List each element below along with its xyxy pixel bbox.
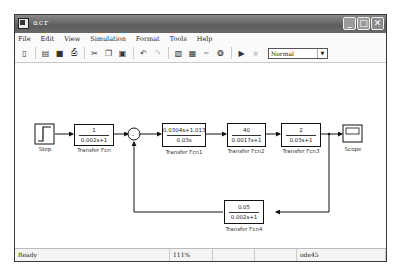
- tf-denominator: 0.002s+1: [75, 137, 113, 143]
- simulink-model-icon: [18, 18, 29, 29]
- model-canvas[interactable]: - Step 1 0.002s+1 Transfer Fcn 0.0304s+1…: [15, 63, 386, 249]
- simulation-mode-value: Normal: [271, 50, 294, 57]
- solver-name: ode45: [297, 249, 386, 261]
- tf3-denominator: 0.03s+1: [282, 137, 320, 143]
- tf-numerator: 1: [75, 127, 113, 133]
- transfer-fcn2-block[interactable]: 40 0.0017s+1: [227, 123, 266, 147]
- tf1-denominator: 0.03s: [163, 137, 205, 143]
- model-window: acr _ □ ✕ File Edit View Simulation Form…: [14, 14, 387, 262]
- start-simulation-icon[interactable]: ▶: [236, 48, 247, 59]
- transfer-fcn3-label: Transfer Fcn3: [282, 148, 319, 154]
- tf3-numerator: 2: [282, 127, 320, 133]
- menu-bar: File Edit View Simulation Format Tools H…: [15, 33, 386, 44]
- menu-simulation[interactable]: Simulation: [90, 35, 126, 43]
- window-title: acr: [33, 18, 49, 27]
- status-text: Ready: [15, 249, 170, 261]
- build-icon[interactable]: ❂: [215, 48, 226, 59]
- status-cell-3: [213, 249, 255, 261]
- copy-icon[interactable]: ❐: [103, 48, 114, 59]
- status-bar: Ready 111% ode45: [15, 248, 386, 261]
- fraction-bar: [286, 135, 316, 136]
- transfer-fcn1-label: Transfer Fcn1: [165, 149, 202, 155]
- title-bar[interactable]: acr _ □ ✕: [15, 15, 386, 33]
- undo-icon[interactable]: ↶: [138, 48, 149, 59]
- menu-help[interactable]: Help: [197, 35, 213, 43]
- fraction-bar: [229, 212, 259, 213]
- scope-block[interactable]: [343, 125, 362, 142]
- menu-edit[interactable]: Edit: [41, 35, 55, 43]
- fraction-bar: [79, 135, 109, 136]
- transfer-fcn4-block[interactable]: 0.05 0.002s+1: [224, 200, 264, 224]
- toolbar-separator: [84, 47, 85, 59]
- save-icon[interactable]: ■: [54, 48, 65, 59]
- maximize-button[interactable]: □: [357, 17, 370, 30]
- library-browser-icon[interactable]: ▧: [173, 48, 184, 59]
- toolbar: ▯ ▤ ■ ⎙ ✂ ❐ ▣ ↶ ↷ ▧ ▦ ✒ ❂ ▶ ■ Normal ▼: [15, 44, 386, 63]
- stop-simulation-icon[interactable]: ■: [250, 48, 261, 59]
- transfer-fcn4-label: Transfer Fcn4: [225, 226, 262, 232]
- chevron-down-icon[interactable]: ▼: [317, 49, 327, 58]
- tf4-denominator: 0.002s+1: [225, 214, 263, 220]
- sum-block[interactable]: [128, 128, 140, 140]
- toolbar-separator: [231, 47, 232, 59]
- transfer-fcn3-block[interactable]: 2 0.03s+1: [281, 123, 321, 147]
- scope-label: Scope: [345, 146, 362, 152]
- debug-icon[interactable]: ✒: [201, 48, 212, 59]
- fraction-bar: [232, 135, 261, 136]
- model-explorer-icon[interactable]: ▦: [187, 48, 198, 59]
- tf1-numerator: 0.0304s+1.013: [163, 127, 205, 133]
- step-label: Step: [39, 146, 52, 152]
- menu-view[interactable]: View: [64, 35, 80, 43]
- paste-icon[interactable]: ▣: [117, 48, 128, 59]
- print-icon[interactable]: ⎙: [68, 48, 79, 59]
- redo-icon[interactable]: ↷: [152, 48, 163, 59]
- cut-icon[interactable]: ✂: [89, 48, 100, 59]
- menu-file[interactable]: File: [18, 35, 31, 43]
- toolbar-separator: [133, 47, 134, 59]
- minimize-button[interactable]: _: [343, 17, 356, 30]
- menu-format[interactable]: Format: [136, 35, 160, 43]
- tf2-denominator: 0.0017s+1: [228, 137, 265, 143]
- simulation-mode-select[interactable]: Normal ▼: [268, 48, 328, 59]
- zoom-level: 111%: [170, 249, 213, 261]
- toolbar-separator: [35, 47, 36, 59]
- transfer-fcn-label: Transfer Fcn: [77, 147, 111, 153]
- transfer-fcn1-block[interactable]: 0.0304s+1.013 0.03s: [162, 123, 206, 147]
- status-cell-4: [255, 249, 297, 261]
- transfer-fcn-block[interactable]: 1 0.002s+1: [74, 124, 114, 146]
- tf4-numerator: 0.05: [225, 204, 263, 210]
- transfer-fcn2-label: Transfer Fcn2: [227, 148, 264, 154]
- tf2-numerator: 40: [228, 127, 265, 133]
- close-button[interactable]: ✕: [371, 17, 384, 30]
- menu-tools[interactable]: Tools: [170, 35, 187, 43]
- new-icon[interactable]: ▯: [19, 48, 30, 59]
- signal-lines: -: [15, 63, 386, 250]
- fraction-bar: [167, 135, 201, 136]
- step-block[interactable]: [35, 124, 54, 144]
- open-icon[interactable]: ▤: [40, 48, 51, 59]
- toolbar-separator: [168, 47, 169, 59]
